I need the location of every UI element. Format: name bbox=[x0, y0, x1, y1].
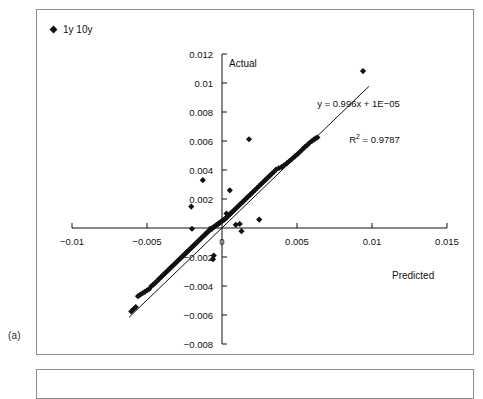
y-tick-label: 0 bbox=[37, 223, 213, 234]
data-point-marker bbox=[246, 136, 252, 142]
r-squared-value: = 0.9787 bbox=[360, 134, 400, 145]
x-axis-title: Predicted bbox=[392, 270, 434, 281]
x-tick-label: 0.005 bbox=[285, 236, 309, 247]
x-tick-label: 0.015 bbox=[435, 236, 459, 247]
regression-equation-annotation: y = 0.996x + 1E−05 R2 = 0.9787 bbox=[296, 86, 400, 182]
data-point-marker bbox=[227, 187, 233, 193]
equation-line-2: R2 = 0.9787 bbox=[296, 122, 400, 158]
y-tick-label: 0.01 bbox=[37, 78, 213, 89]
data-point-marker bbox=[238, 228, 244, 234]
y-tick-label: 0.006 bbox=[37, 136, 213, 147]
y-tick-label: −0.002 bbox=[37, 252, 213, 263]
data-point-marker bbox=[256, 216, 262, 222]
diamond-marker-icon bbox=[49, 25, 58, 34]
y-tick-label: 0.008 bbox=[37, 107, 213, 118]
y-axis-title: Actual bbox=[229, 58, 257, 69]
legend-item-label: 1y 10y bbox=[63, 24, 92, 35]
plot-area: −0.01−0.00500.0050.010.0150.0120.010.008… bbox=[37, 10, 475, 356]
x-tick-label: −0.01 bbox=[60, 236, 84, 247]
scatter-panel: −0.01−0.00500.0050.010.0150.0120.010.008… bbox=[36, 9, 474, 355]
y-tick-label: −0.006 bbox=[37, 310, 213, 321]
y-tick-label: 0.004 bbox=[37, 165, 213, 176]
panel-caption: (a) bbox=[8, 330, 21, 341]
equation-line-1: y = 0.996x + 1E−05 bbox=[317, 98, 400, 109]
x-tick-label: 0.01 bbox=[363, 236, 382, 247]
y-tick-label: −0.008 bbox=[37, 339, 213, 350]
y-tick-label: −0.004 bbox=[37, 281, 213, 292]
y-tick-label: 0.012 bbox=[37, 49, 213, 60]
data-point-marker bbox=[360, 68, 366, 74]
second-panel bbox=[36, 369, 474, 399]
y-tick-label: 0.002 bbox=[37, 194, 213, 205]
x-tick-label: −0.005 bbox=[132, 236, 161, 247]
chart-legend: 1y 10y bbox=[49, 24, 92, 35]
x-tick-label: 0 bbox=[219, 236, 224, 247]
data-point-marker bbox=[200, 177, 206, 183]
r-squared-prefix: R bbox=[349, 134, 356, 145]
